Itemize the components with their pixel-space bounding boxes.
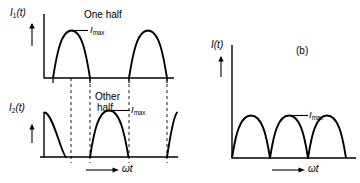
plot-i2-y-axis-label-arg: (t) — [15, 102, 24, 113]
plot-i-total-y-direction-arrow-icon — [218, 56, 223, 77]
plot-i-total-imax-label: Imax — [309, 110, 323, 121]
figure-canvas — [0, 0, 360, 183]
annotation-other-half-line2: half — [97, 103, 113, 113]
plot-i2-imax-label-sub: max — [134, 109, 146, 116]
plot-i-total-curve — [232, 116, 346, 159]
plot-i1-y-direction-arrow-icon — [29, 23, 35, 46]
plot-i2-x-direction-arrow-icon — [86, 167, 119, 172]
panel-label-b: (b) — [296, 46, 308, 56]
annotation-one-half: One half — [84, 10, 122, 20]
plot-i1-curve — [53, 31, 90, 79]
plot-i2-x-axis-label-main: ω — [122, 163, 130, 174]
plot-i2-curve-partial-right — [167, 113, 177, 158]
figure-root: I1(t) One half Imax I2(t) Other half Ima… — [0, 0, 360, 183]
plot-i-total-y-axis-label-arg: (t) — [214, 39, 223, 50]
plot-i-total-y-axis-label: I(t) — [211, 40, 223, 50]
plot-i2-x-axis-label: ωt — [122, 164, 133, 174]
plot-i-total-x-axis-label-main: ω — [308, 163, 316, 174]
plot-i1-imax-label-sub: max — [93, 29, 105, 36]
plot-i-total-x-axis-label-sub: t — [316, 163, 319, 174]
plot-i2-curve-main — [90, 111, 129, 158]
plot-i2-y-axis-label: I2(t) — [9, 103, 25, 114]
plot-i2-curve-partial-left — [45, 113, 67, 158]
plot-i2-imax-label: Imax — [131, 105, 145, 116]
plot-i-total-x-direction-arrow-icon — [272, 167, 305, 172]
plot-i-total — [218, 45, 356, 173]
plot-i2-x-axis-label-sub: t — [130, 163, 133, 174]
plot-i1-y-axis-label-arg: (t) — [16, 7, 25, 18]
plot-i-total-imax-label-sub: max — [312, 114, 324, 121]
plot-i2 — [29, 111, 178, 173]
plot-i1-curve-2 — [129, 31, 167, 79]
plot-i1-x-ticks — [53, 78, 167, 83]
plot-i-total-x-axis-label: ωt — [308, 164, 319, 174]
plot-i2-y-direction-arrow-icon — [29, 124, 34, 143]
plot-i1-y-axis-label: I1(t) — [10, 8, 26, 19]
plot-i1-imax-label: Imax — [90, 25, 104, 36]
annotation-other-half-line1: Other — [95, 92, 120, 102]
